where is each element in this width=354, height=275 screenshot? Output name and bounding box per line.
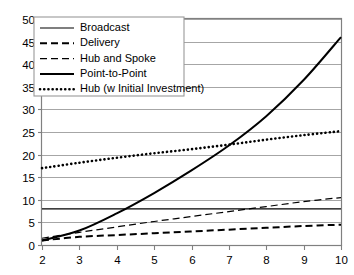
legend-label: Hub (w Initial Investment) [80,82,204,94]
y-tick-label: 50 [22,14,35,26]
x-tick-label: 6 [189,254,195,266]
x-tick-label: 2 [39,254,45,266]
y-tick-label: 0 [29,240,35,252]
legend-label: Broadcast [80,21,130,33]
y-tick-label: 45 [22,37,35,49]
y-tick-label: 25 [22,127,35,139]
y-tick-label: 5 [29,217,35,229]
chart-legend: BroadcastDeliveryHub and SpokePoint-to-P… [34,17,204,96]
line-chart: 05101520253035404550 2345678910 Broadcas… [0,0,354,275]
x-tick-label: 4 [114,254,121,266]
y-tick-label: 15 [22,172,35,184]
y-tick-label: 20 [22,150,35,162]
x-tick-label: 7 [226,254,232,266]
y-tick-label: 35 [22,82,35,94]
chart-container: 05101520253035404550 2345678910 Broadcas… [0,0,354,275]
x-tick-label: 9 [301,254,307,266]
x-tick-label: 8 [263,254,269,266]
x-tick-label: 10 [335,254,348,266]
legend-label: Hub and Spoke [80,52,156,64]
legend-label: Point-to-Point [80,67,147,79]
y-tick-label: 10 [22,195,35,207]
legend-label: Delivery [80,36,120,48]
y-tick-label: 30 [22,104,35,116]
x-tick-label: 5 [151,254,157,266]
x-tick-label: 3 [76,254,82,266]
y-tick-label: 40 [22,59,35,71]
